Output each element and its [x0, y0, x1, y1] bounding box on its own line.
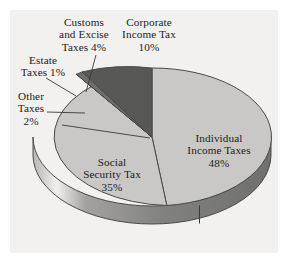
label-line: Customs [53, 16, 115, 28]
slice-label-estate-taxes: Estate Taxes 1% [12, 54, 74, 79]
label-line: Social [70, 156, 154, 168]
label-value: 48% [176, 157, 262, 169]
slice-label-customs-and-excise-taxes: Customs and Excise Taxes 4% [53, 16, 115, 53]
label-value: 35% [70, 181, 154, 193]
slice-label-individual-income-taxes: Individual Income Taxes 48% [176, 132, 262, 169]
label-value: Taxes 4% [53, 41, 115, 53]
label-line: Taxes [9, 102, 53, 114]
label-line: Other [9, 90, 53, 102]
label-line: Estate [12, 54, 74, 66]
slice-label-other-taxes: Other Taxes 2% [9, 90, 53, 127]
label-value: 10% [113, 41, 185, 53]
pie-chart-screenshot: Individual Income Taxes 48% Social Secur… [0, 0, 292, 268]
label-line: Individual [176, 132, 262, 144]
label-value: 2% [9, 115, 53, 127]
slice-label-social-security-tax: Social Security Tax 35% [70, 156, 154, 193]
label-line: Income Tax [113, 28, 185, 40]
slice-label-corporate-income-tax: Corporate Income Tax 10% [113, 16, 185, 53]
label-line: Corporate [113, 16, 185, 28]
label-line: Income Taxes [176, 144, 262, 156]
label-line: Security Tax [70, 168, 154, 180]
label-value: Taxes 1% [12, 66, 74, 78]
label-line: and Excise [53, 28, 115, 40]
